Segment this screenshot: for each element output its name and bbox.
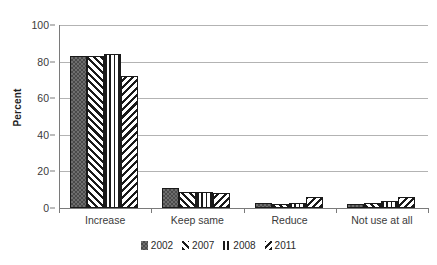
bar-chart: Percent 100 80 60 40 20 0 xyxy=(0,0,437,265)
x-axis-labels: Increase Keep same Reduce Not use at all xyxy=(59,214,428,226)
bar-group xyxy=(59,25,151,208)
bar-2008-keep-same xyxy=(196,192,213,208)
legend-swatch-icon xyxy=(141,241,148,250)
bar-group-bars xyxy=(151,25,243,208)
legend-swatch-icon xyxy=(182,241,189,250)
bar-group-bars xyxy=(59,25,151,208)
x-axis-label: Not use at all xyxy=(336,214,428,226)
plot-area xyxy=(59,25,428,208)
bar-group-bars xyxy=(244,25,336,208)
y-tick-mark xyxy=(50,25,55,26)
y-tick-label: 100 xyxy=(31,19,49,31)
y-tick-label: 40 xyxy=(37,129,49,141)
bar-2007-keep-same xyxy=(179,192,196,208)
y-tick-label: 80 xyxy=(37,56,49,68)
y-tick-mark xyxy=(50,171,55,172)
bar-groups xyxy=(59,25,428,208)
legend-item-2008: 2008 xyxy=(223,240,255,251)
x-tick-mark xyxy=(428,208,429,213)
bar-group-bars xyxy=(336,25,428,208)
y-axis-ticks: 100 80 60 40 20 0 xyxy=(0,25,59,208)
y-tick-mark xyxy=(50,98,55,99)
legend-label: 2007 xyxy=(192,240,214,251)
x-tick-mark xyxy=(151,208,152,213)
y-tick-label: 60 xyxy=(37,92,49,104)
bar-2011-not-use-at-all xyxy=(398,197,415,208)
bar-2011-increase xyxy=(121,76,138,208)
bar-2002-increase xyxy=(70,56,87,208)
x-axis-label: Keep same xyxy=(151,214,243,226)
y-tick-mark xyxy=(50,208,55,209)
x-tick-mark xyxy=(336,208,337,213)
bar-2002-keep-same xyxy=(162,188,179,208)
legend-item-2011: 2011 xyxy=(265,240,297,251)
x-axis-label: Reduce xyxy=(244,214,336,226)
legend-swatch-icon xyxy=(223,241,230,250)
y-tick-label: 0 xyxy=(43,202,49,214)
legend-label: 2011 xyxy=(275,240,297,251)
bar-2011-keep-same xyxy=(213,193,230,208)
legend-swatch-icon xyxy=(265,241,272,250)
bar-2008-not-use-at-all xyxy=(381,201,398,208)
bar-group xyxy=(244,25,336,208)
x-axis-label: Increase xyxy=(59,214,151,226)
legend-item-2007: 2007 xyxy=(182,240,214,251)
legend-item-2002: 2002 xyxy=(141,240,173,251)
bar-group xyxy=(336,25,428,208)
y-tick-mark xyxy=(50,61,55,62)
x-tick-mark xyxy=(59,208,60,213)
y-tick-label: 20 xyxy=(37,165,49,177)
legend-label: 2002 xyxy=(151,240,173,251)
bar-2011-reduce xyxy=(306,197,323,208)
bar-2008-increase xyxy=(104,54,121,208)
y-tick-mark xyxy=(50,134,55,135)
chart-legend: 2002 2007 2008 2011 xyxy=(0,240,437,251)
x-tick-mark xyxy=(244,208,245,213)
bar-group xyxy=(151,25,243,208)
legend-label: 2008 xyxy=(233,240,255,251)
bar-2007-increase xyxy=(87,56,104,208)
